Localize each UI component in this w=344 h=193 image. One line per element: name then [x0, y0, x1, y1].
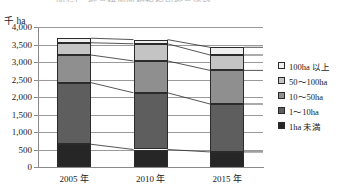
- bar-segment[interactable]: [210, 104, 244, 152]
- legend-swatch-icon: [278, 107, 285, 114]
- bar-segment[interactable]: [134, 44, 168, 61]
- y-axis-tick: [34, 27, 38, 28]
- x-axis-label: 2010 年: [136, 172, 165, 185]
- y-axis-tick-label: 3,500: [12, 40, 32, 49]
- y-axis-tick-label: 2,000: [12, 93, 32, 102]
- y-axis-tick-label: 2,500: [12, 75, 32, 84]
- plot-area: 05001,0001,5002,0002,5003,0003,5004,000: [38, 27, 263, 167]
- connector-line: [168, 40, 211, 48]
- bar-segment[interactable]: [57, 144, 91, 167]
- bar-segment[interactable]: [134, 150, 168, 168]
- y-axis-tick: [34, 45, 38, 46]
- y-axis-tick: [34, 150, 38, 151]
- y-axis-tick: [34, 62, 38, 63]
- y-axis-tick: [34, 97, 38, 98]
- y-axis-tick-label: 4,000: [12, 23, 32, 32]
- connector-line: [168, 93, 211, 104]
- connector-line: [91, 38, 134, 39]
- bar-segment[interactable]: [210, 47, 244, 55]
- bar-segment[interactable]: [57, 43, 91, 55]
- y-axis-tick: [34, 115, 38, 116]
- legend-label: 50～100ha: [289, 75, 327, 87]
- bar-stack[interactable]: [57, 27, 91, 167]
- y-axis-tick: [34, 80, 38, 81]
- y-axis-tick-label: 0: [28, 163, 33, 172]
- bar-segment[interactable]: [57, 83, 91, 145]
- y-axis-tick-label: 1,000: [12, 128, 32, 137]
- legend-swatch-icon: [278, 77, 285, 84]
- legend-label: 100ha 以上: [289, 60, 330, 72]
- bar-segment[interactable]: [134, 40, 168, 44]
- legend-swatch-icon: [278, 92, 285, 99]
- chart-title: 図4-1 経営耕地面積規模別経営体数: [0, 0, 268, 2]
- y-axis-tick: [34, 167, 38, 168]
- bar-segment[interactable]: [57, 55, 91, 83]
- x-axis-label: 2005 年: [59, 172, 88, 185]
- legend-swatch-icon: [278, 62, 285, 69]
- bar-segment[interactable]: [210, 152, 244, 167]
- chart-legend: 100ha 以上50～100ha10～50ha1～10ha1ha 未満: [278, 58, 330, 133]
- y-axis-tick-label: 500: [19, 145, 33, 154]
- legend-swatch-icon: [278, 122, 285, 129]
- y-axis-tick-label: 3,000: [12, 58, 32, 67]
- bar-stack[interactable]: [210, 27, 244, 167]
- legend-item[interactable]: 10～50ha: [278, 88, 330, 103]
- legend-item[interactable]: 50～100ha: [278, 73, 330, 88]
- bar-segment[interactable]: [134, 61, 168, 93]
- legend-item[interactable]: 1～10ha: [278, 103, 330, 118]
- y-axis-tick: [34, 132, 38, 133]
- legend-label: 1ha 未満: [289, 120, 321, 132]
- legend-label: 1～10ha: [289, 105, 319, 117]
- x-axis-label: 2015 年: [212, 172, 241, 185]
- connector-line: [91, 55, 134, 61]
- legend-item[interactable]: 1ha 未満: [278, 118, 330, 133]
- bar-segment[interactable]: [210, 55, 244, 70]
- bar-stack[interactable]: [134, 27, 168, 167]
- bar-segment[interactable]: [210, 70, 244, 104]
- connector-line: [91, 83, 134, 93]
- x-axis-line: [38, 167, 264, 168]
- legend-item[interactable]: 100ha 以上: [278, 58, 330, 73]
- chart-container: 図4-1 経営耕地面積規模別経営体数 千 ha 05001,0001,5002,…: [0, 0, 344, 193]
- bar-segment[interactable]: [57, 38, 91, 43]
- bar-segment[interactable]: [134, 93, 168, 150]
- y-axis-tick-label: 1,500: [12, 110, 32, 119]
- legend-label: 10～50ha: [289, 90, 323, 102]
